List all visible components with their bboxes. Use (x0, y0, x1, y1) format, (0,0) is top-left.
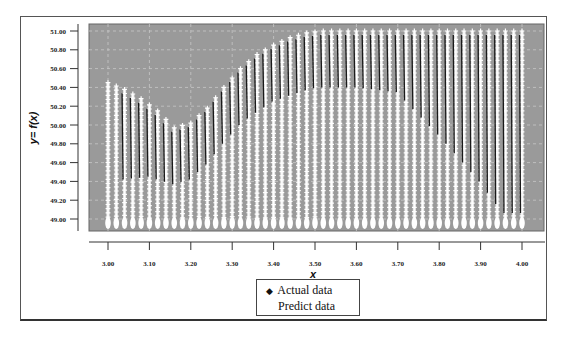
legend: ◆ Actual data Predict data (256, 279, 360, 316)
svg-text:3.20: 3.20 (185, 260, 198, 268)
svg-text:49.60: 49.60 (50, 159, 66, 167)
diamond-marker-icon: ◆ (263, 283, 275, 299)
svg-text:3.80: 3.80 (433, 260, 446, 268)
legend-item-actual: ◆ Actual data (263, 282, 332, 298)
svg-text:50.80: 50.80 (50, 46, 66, 54)
y-axis-ticks: 49.0049.2049.4049.6049.8050.0050.2050.40… (50, 28, 78, 224)
svg-text:3.00: 3.00 (102, 260, 115, 268)
legend-item-predict: Predict data (263, 298, 335, 314)
svg-text:50.60: 50.60 (50, 65, 66, 73)
svg-text:3.70: 3.70 (392, 260, 405, 268)
legend-label-predict: Predict data (278, 299, 335, 313)
svg-text:3.30: 3.30 (226, 260, 239, 268)
svg-text:49.40: 49.40 (50, 178, 66, 186)
svg-text:4.00: 4.00 (516, 260, 529, 268)
svg-text:49.80: 49.80 (50, 140, 66, 148)
x-axis-ticks: 3.003.103.203.303.403.503.603.703.803.90… (102, 242, 529, 268)
legend-label-actual: Actual data (277, 283, 332, 297)
svg-text:3.40: 3.40 (267, 260, 280, 268)
svg-text:50.20: 50.20 (50, 103, 66, 111)
svg-text:49.00: 49.00 (50, 216, 66, 224)
svg-text:3.90: 3.90 (474, 260, 487, 268)
svg-text:50.00: 50.00 (50, 122, 66, 130)
svg-text:3.50: 3.50 (309, 260, 322, 268)
svg-text:51.00: 51.00 (50, 28, 66, 36)
svg-text:49.20: 49.20 (50, 197, 66, 205)
svg-text:50.40: 50.40 (50, 84, 66, 92)
y-axis-title: y= f(x) (27, 111, 39, 145)
svg-text:3.10: 3.10 (143, 260, 156, 268)
svg-text:3.60: 3.60 (350, 260, 363, 268)
